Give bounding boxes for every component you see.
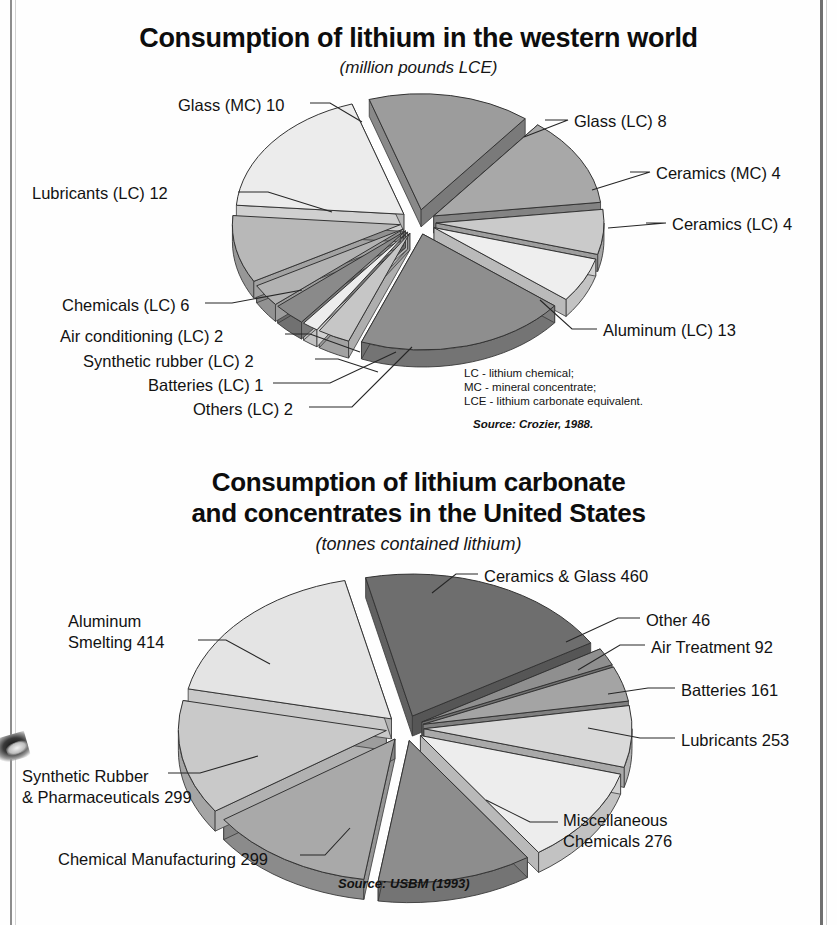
chart1-label-aluminum: Aluminum (LC) 13 — [603, 320, 736, 340]
chart1-source: Source: Crozier, 1988. — [473, 418, 593, 430]
chart2-label-ceramics-glass: Ceramics & Glass 460 — [484, 566, 648, 586]
chart1-label-lubricants: Lubricants (LC) 12 — [32, 183, 168, 203]
chart1-label-chemicals: Chemicals (LC) 6 — [62, 295, 189, 315]
chart2-label-misc-chemicals-line1: Miscellaneous — [563, 810, 668, 830]
chart2-label-aluminum-line1: Aluminum — [68, 611, 141, 631]
chart2-title-line1: Consumption of lithium carbonate — [0, 467, 837, 498]
chart2-label-aluminum-line2: Smelting 414 — [68, 632, 164, 652]
chart1-label-ceramics-lc: Ceramics (LC) 4 — [672, 214, 792, 234]
chart2-label-air-treatment: Air Treatment 92 — [651, 637, 773, 657]
chart2-source: Source: USBM (1993) — [338, 876, 469, 891]
chart1-label-batteries: Batteries (LC) 1 — [148, 375, 264, 395]
chart2-label-misc-chemicals-line2: Chemicals 276 — [563, 831, 672, 851]
chart2-label-lubricants: Lubricants 253 — [681, 730, 789, 750]
chart2-label-batteries: Batteries 161 — [681, 680, 778, 700]
chart2-label-synthetic-rubber-line2: & Pharmaceuticals 299 — [22, 787, 192, 807]
chart1-label-glass-mc: Glass (MC) 10 — [178, 95, 284, 115]
chart2-label-other: Other 46 — [646, 610, 710, 630]
scanned-page: Consumption of lithium in the western wo… — [0, 0, 837, 925]
chart1-label-air-conditioning: Air conditioning (LC) 2 — [60, 326, 223, 346]
chart2-title-line2: and concentrates in the United States — [0, 498, 837, 529]
chart1-label-ceramics-mc: Ceramics (MC) 4 — [656, 163, 781, 183]
chart1-label-synthetic-rubber: Synthetic rubber (LC) 2 — [83, 351, 254, 371]
chart1-abbreviation-note: LC - lithium chemical; MC - mineral conc… — [464, 366, 643, 408]
chart2-label-chemical-manufacturing: Chemical Manufacturing 299 — [58, 849, 268, 869]
chart1-label-others: Others (LC) 2 — [193, 399, 293, 419]
chart2-subtitle: (tonnes contained lithium) — [0, 534, 837, 555]
chart1-label-glass-lc: Glass (LC) 8 — [574, 111, 667, 131]
chart2-label-synthetic-rubber-line1: Synthetic Rubber — [22, 766, 149, 786]
